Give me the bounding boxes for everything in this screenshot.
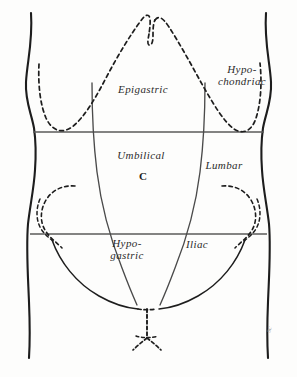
torso-outline-left xyxy=(26,13,36,358)
costal-margin-left-dashed xyxy=(39,15,150,130)
region-label-hypochondriac-line2: chondriac xyxy=(204,76,280,88)
region-label-lumbar: Lumbar xyxy=(193,160,255,172)
region-label-hypogastric: Hypo- gastric xyxy=(96,238,158,261)
region-label-hypogastric-line2: gastric xyxy=(96,250,158,262)
region-label-hypochondriac-line1: Hypo- xyxy=(204,64,280,76)
xiphoid-notch-dashed xyxy=(148,20,155,45)
pubic-fork-left-dashed xyxy=(133,338,147,350)
navel-marker: C xyxy=(137,170,149,182)
abdominal-regions-figure: Epigastric Hypo- chondriac Umbilical Lum… xyxy=(0,0,297,377)
region-label-iliac: Iliac xyxy=(174,239,220,251)
iliac-crest-right-dashed xyxy=(222,186,256,248)
pubic-fork-right-dashed xyxy=(147,338,161,350)
midclavicular-plane-right xyxy=(160,83,205,305)
region-label-hypochondriac: Hypo- chondriac xyxy=(204,64,280,87)
region-label-epigastric: Epigastric xyxy=(104,84,182,96)
iliac-crest-left-dashed xyxy=(41,186,75,248)
region-label-hypogastric-line1: Hypo- xyxy=(96,238,158,250)
midclavicular-plane-left xyxy=(92,83,137,305)
region-label-umbilical: Umbilical xyxy=(102,150,180,162)
anatomy-line-art xyxy=(0,0,297,377)
